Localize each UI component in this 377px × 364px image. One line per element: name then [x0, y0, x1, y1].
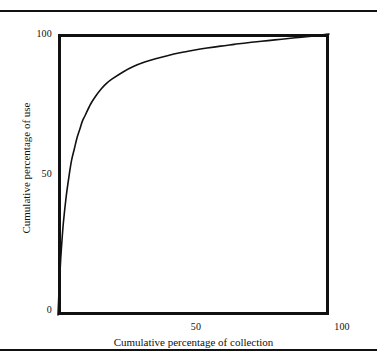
- y-tick-label-100: 100: [12, 29, 52, 39]
- chart-figure: 100 50 0 50 100 Cumulative percentage of…: [0, 12, 377, 349]
- y-axis-title: Cumulative percentage of use: [20, 68, 32, 268]
- x-tick-label-100: 100: [322, 322, 362, 332]
- page-rule-bottom: [0, 349, 377, 351]
- y-tick-label-50: 50: [12, 169, 52, 179]
- figure-page: 100 50 0 50 100 Cumulative percentage of…: [0, 0, 377, 364]
- data-series-line: [58, 34, 329, 315]
- y-tick-label-0: 0: [12, 305, 52, 315]
- x-axis-title: Cumulative percentage of collection: [58, 336, 329, 348]
- plot-area: [58, 34, 329, 315]
- x-tick-label-50: 50: [176, 322, 216, 332]
